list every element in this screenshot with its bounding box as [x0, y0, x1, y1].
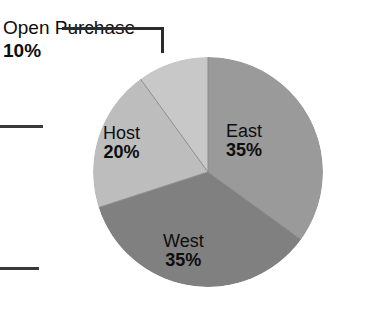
slice-label-east: East 35% — [226, 122, 262, 161]
slice-percent-west: 35% — [163, 251, 204, 270]
slice-label-host: Host 20% — [103, 124, 140, 163]
pie-chart — [93, 57, 323, 287]
callout-leader-line-horizontal — [62, 27, 164, 30]
pie-slices — [93, 57, 323, 287]
slice-name-west: West — [163, 232, 204, 251]
slice-percent-host: 20% — [103, 143, 140, 162]
slice-label-west: West 35% — [163, 232, 204, 271]
callout-leader-line-vertical — [161, 27, 164, 53]
cropped-leader-stub-lower — [0, 267, 39, 270]
slice-percent-east: 35% — [226, 141, 262, 160]
pie-chart-figure: East 35% West 35% Host 20% Open Purchase… — [0, 0, 365, 329]
cropped-leader-stub-upper — [0, 125, 43, 128]
slice-name-host: Host — [103, 124, 140, 143]
slice-label-open-purchase: Open Purchase 10% — [3, 17, 135, 61]
slice-percent-open-purchase: 10% — [3, 40, 135, 62]
slice-name-east: East — [226, 122, 262, 141]
pie-svg — [93, 57, 323, 287]
